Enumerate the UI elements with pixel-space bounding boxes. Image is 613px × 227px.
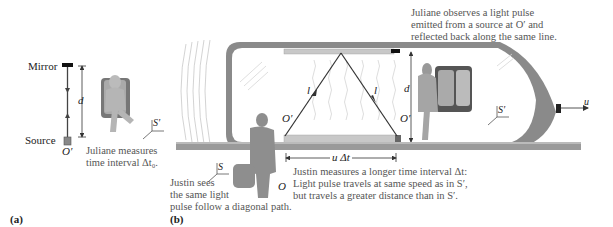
observer-label: O	[278, 180, 286, 192]
justin-caption-line2: Light pulse travels at same speed as in …	[293, 178, 468, 191]
path-label-left: l	[307, 84, 310, 96]
frame-label-a: S′	[153, 117, 160, 128]
top-mirror-strip	[284, 49, 400, 54]
juliane-caption-b-line3: reflected back along the same line.	[411, 31, 557, 44]
juliane-caption-a-line2: time interval Δt₀.	[86, 157, 158, 170]
source-icon	[64, 137, 71, 145]
source-label: Source	[25, 134, 56, 146]
panel-b-label: (b)	[170, 213, 183, 225]
juliane-caption-a-line1: Juliane measures	[86, 145, 157, 158]
juliane-figure-a	[101, 75, 134, 132]
origin-label-a: O′	[62, 145, 72, 157]
juliane-caption-b-line2: emitted from a source at O′ and	[411, 19, 543, 32]
frame-label-b-ground: S	[218, 161, 223, 172]
bottom-source-strip	[284, 135, 401, 143]
justin-sees-line1: Justin sees	[170, 177, 215, 190]
mirror-icon	[62, 63, 73, 67]
panel-a-label: (a)	[10, 213, 23, 225]
justin-sees-line2: the same light	[170, 189, 229, 202]
mirror-label: Mirror	[28, 60, 57, 72]
justin-sees-line3: pulse follow a diagonal path.	[170, 201, 292, 214]
velocity-label: u	[584, 96, 589, 107]
displacement-label: u Δt	[330, 151, 352, 163]
origin-label-b-right: O′	[400, 112, 410, 124]
motion-lines	[181, 40, 210, 144]
frame-label-b-train: S′	[498, 104, 505, 115]
path-label-right: l	[374, 84, 377, 96]
juliane-caption-b-line1: Juliane observes a light pulse	[411, 7, 534, 20]
origin-label-b-left: O′	[282, 112, 292, 124]
justin-caption-line3: but travels a greater distance than in S…	[293, 190, 458, 203]
justin-caption-line1: Justin measures a longer time interval Δ…	[293, 166, 467, 179]
distance-label-a: d	[78, 94, 84, 106]
distance-label-b: d	[404, 82, 410, 94]
train-body	[226, 42, 561, 148]
